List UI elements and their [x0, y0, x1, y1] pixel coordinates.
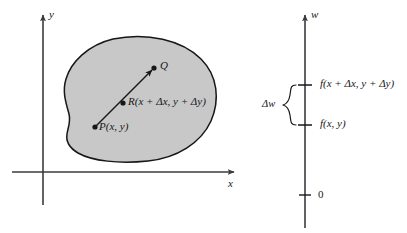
w-origin-label: 0 [318, 189, 324, 200]
right-axis [298, 15, 312, 228]
w-value-lower-label: f(x, y) [320, 118, 346, 129]
point-R-label: R(x + Δx, y + Δy) [128, 96, 206, 107]
point-R-dot [120, 100, 125, 105]
point-P-label: P(x, y) [99, 121, 128, 132]
point-Q-dot [151, 65, 156, 70]
y-axis-label: y [49, 9, 54, 20]
w-value-upper-label: f(x + Δx, y + Δy) [320, 78, 394, 89]
figure-canvas: y x Q R(x + Δx, y + Δy) P(x, y) w f(x + … [0, 0, 407, 233]
delta-w-label: Δw [262, 99, 275, 110]
point-Q-label: Q [160, 60, 168, 71]
delta-w-brace [283, 85, 296, 125]
w-axis-label: w [311, 9, 318, 20]
x-axis-label: x [228, 178, 233, 189]
point-P-dot [92, 124, 97, 129]
